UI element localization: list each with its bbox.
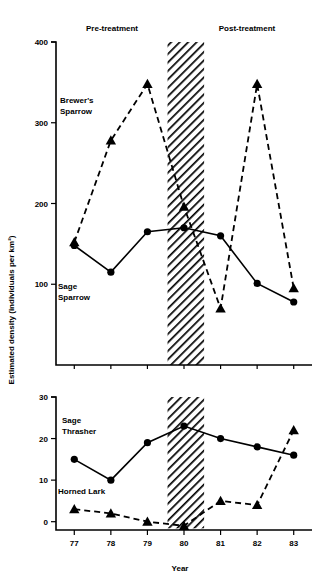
x-tick-label: 83 bbox=[289, 539, 298, 548]
data-point bbox=[144, 439, 151, 446]
y-tick-label: 20 bbox=[39, 435, 48, 444]
x-tick-label: 81 bbox=[216, 539, 225, 548]
figure-container: Pre-treatment Post-treatment Estimated d… bbox=[0, 0, 321, 580]
data-point bbox=[180, 224, 187, 231]
x-tick-label: 80 bbox=[180, 539, 189, 548]
series-label-sage-thrasher-line1: Sage bbox=[62, 416, 82, 425]
x-axis-title: Year bbox=[172, 564, 189, 573]
bottom-panel: 0102030 77787980818283 Sage Thrasher Hor… bbox=[39, 393, 312, 573]
y-axis-title: Estimated density (individuals per km²) bbox=[7, 235, 16, 384]
series-label-sage-sparrow-line1: Sage bbox=[58, 282, 78, 291]
data-point bbox=[289, 283, 299, 292]
chart-svg: Pre-treatment Post-treatment Estimated d… bbox=[0, 0, 321, 580]
x-tick-label: 78 bbox=[106, 539, 115, 548]
data-point bbox=[69, 504, 79, 513]
pre-treatment-label: Pre-treatment bbox=[86, 24, 138, 33]
post-treatment-label: Post-treatment bbox=[219, 24, 276, 33]
data-point bbox=[144, 228, 151, 235]
data-point bbox=[217, 435, 224, 442]
x-tick-label: 82 bbox=[253, 539, 262, 548]
y-tick-label: 30 bbox=[39, 393, 48, 402]
y-tick-label: 400 bbox=[35, 38, 49, 47]
data-point bbox=[215, 496, 225, 505]
y-tick-label: 0 bbox=[44, 518, 49, 527]
series-label-sage-sparrow-line2: Sparrow bbox=[58, 293, 91, 302]
data-point bbox=[71, 242, 78, 249]
bottom-panel-hatch-band bbox=[168, 397, 205, 528]
data-point bbox=[289, 425, 299, 434]
top-panel: 100200300400 Brewer's Sparrow Sage Sparr… bbox=[35, 38, 312, 369]
x-tick-label: 79 bbox=[143, 539, 152, 548]
data-point bbox=[254, 443, 261, 450]
top-panel-hatch-band bbox=[168, 42, 205, 365]
data-point bbox=[142, 79, 152, 88]
series-label-horned-lark: Horned Lark bbox=[58, 487, 106, 496]
data-point bbox=[215, 303, 225, 312]
data-point bbox=[290, 298, 297, 305]
data-point bbox=[106, 135, 116, 144]
data-point bbox=[107, 477, 114, 484]
series-label-brewers-sparrow-line2: Sparrow bbox=[60, 107, 93, 116]
data-point bbox=[217, 232, 224, 239]
data-point bbox=[180, 422, 187, 429]
data-point bbox=[252, 79, 262, 88]
data-point bbox=[290, 452, 297, 459]
y-tick-label: 200 bbox=[35, 200, 49, 209]
y-tick-label: 300 bbox=[35, 119, 49, 128]
data-point bbox=[71, 456, 78, 463]
x-tick-label: 77 bbox=[70, 539, 79, 548]
data-point bbox=[107, 269, 114, 276]
data-point bbox=[252, 500, 262, 509]
data-point bbox=[254, 280, 261, 287]
series-label-brewers-sparrow-line1: Brewer's bbox=[60, 96, 94, 105]
series-label-sage-thrasher-line2: Thrasher bbox=[62, 427, 96, 436]
y-tick-label: 100 bbox=[35, 280, 49, 289]
y-tick-label: 10 bbox=[39, 476, 48, 485]
